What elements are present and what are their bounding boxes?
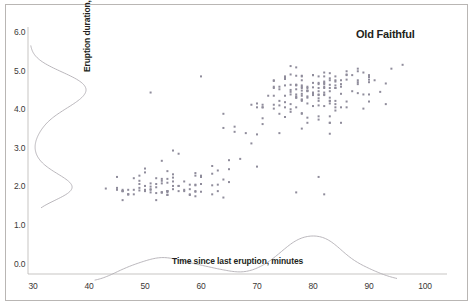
scatter-point	[334, 110, 336, 112]
scatter-point	[178, 153, 180, 155]
x-tick-label: 80	[308, 281, 317, 291]
scatter-point	[172, 173, 174, 175]
scatter-point	[306, 117, 308, 119]
scatter-point	[323, 72, 325, 74]
scatter-point	[312, 94, 314, 96]
scatter-point	[318, 87, 320, 89]
scatter-point	[144, 168, 146, 170]
scatter-point	[323, 75, 325, 77]
scatter-point	[323, 92, 325, 94]
scatter-point	[318, 115, 320, 117]
scatter-point	[273, 95, 275, 97]
scatter-point	[357, 81, 359, 83]
scatter-point	[262, 104, 264, 106]
scatter-point	[346, 70, 348, 72]
scatter-point	[357, 83, 359, 85]
scatter-point	[329, 84, 331, 86]
scatter-point	[172, 185, 174, 187]
scatter-point	[318, 97, 320, 99]
scatter-point	[284, 101, 286, 103]
scatter-point	[172, 177, 174, 179]
scatter-point	[340, 86, 342, 88]
scatter-point	[262, 117, 264, 119]
scatter-point	[234, 126, 236, 128]
scatter-point	[301, 75, 303, 77]
scatter-point	[312, 74, 314, 76]
scatter-point	[222, 197, 224, 199]
chart-figure: Old Faithful Eruption duration, minutes …	[0, 0, 473, 306]
scatter-point	[256, 106, 258, 108]
scatter-point	[250, 142, 252, 144]
scatter-point	[284, 76, 286, 78]
scatter-point	[161, 160, 163, 162]
scatter-point	[323, 193, 325, 195]
marginal-density-curves	[31, 45, 397, 280]
scatter-point	[340, 79, 342, 81]
scatter-point	[323, 81, 325, 83]
scatter-point	[312, 86, 314, 88]
y-tick-label: 3.0	[14, 143, 25, 153]
scatter-point	[351, 90, 353, 92]
x-tick-label: 70	[252, 281, 261, 291]
scatter-point	[334, 100, 336, 102]
scatter-point	[250, 104, 252, 106]
scatter-point	[116, 189, 118, 191]
scatter-point	[217, 169, 219, 171]
scatter-point	[312, 105, 314, 107]
scatter-point	[346, 74, 348, 76]
scatter-point	[155, 199, 157, 201]
scatter-point	[262, 106, 264, 108]
scatter-point	[172, 150, 174, 152]
scatter-point	[323, 83, 325, 85]
scatter-point	[222, 179, 224, 181]
scatter-point	[278, 104, 280, 106]
x-tick-label: 90	[364, 281, 373, 291]
scatter-point	[116, 176, 118, 178]
scatter-point	[228, 181, 230, 183]
scatter-point	[329, 102, 331, 104]
scatter-point	[295, 84, 297, 86]
scatter-point	[133, 177, 135, 179]
scatter-point	[228, 159, 230, 161]
y-tick-label: 6.0	[14, 27, 25, 37]
scatter-point	[385, 103, 387, 105]
scatter-point	[329, 97, 331, 99]
scatter-points	[105, 64, 404, 201]
scatter-point	[318, 119, 320, 121]
scatter-point	[211, 184, 213, 186]
scatter-point	[368, 79, 370, 81]
scatter-point	[346, 79, 348, 81]
scatter-point	[306, 122, 308, 124]
scatter-point	[200, 183, 202, 185]
scatter-point	[301, 93, 303, 95]
scatter-point	[318, 104, 320, 106]
scatter-point	[357, 79, 359, 81]
scatter-point	[295, 93, 297, 95]
scatter-point	[189, 188, 191, 190]
scatter-point	[122, 190, 124, 192]
scatter-point	[368, 76, 370, 78]
y-tick-label: 4.0	[14, 104, 25, 114]
scatter-point	[374, 79, 376, 81]
scatter-point	[144, 190, 146, 192]
scatter-point	[278, 100, 280, 102]
scatter-point	[351, 74, 353, 76]
scatter-point	[228, 168, 230, 170]
scatter-point	[329, 79, 331, 81]
scatter-point	[362, 72, 364, 74]
scatter-point	[200, 191, 202, 193]
scatter-point	[222, 127, 224, 129]
scatter-point	[290, 89, 292, 91]
scatter-point	[105, 188, 107, 190]
scatter-point	[340, 93, 342, 95]
scatter-point	[329, 115, 331, 117]
scatter-point	[368, 74, 370, 76]
scatter-point	[318, 176, 320, 178]
x-tick-label: 40	[84, 281, 93, 291]
scatter-point	[138, 175, 140, 177]
scatter-point	[290, 73, 292, 75]
scatter-point	[138, 180, 140, 182]
scatter-point	[166, 190, 168, 192]
scatter-point	[340, 83, 342, 85]
scatter-point	[346, 106, 348, 108]
